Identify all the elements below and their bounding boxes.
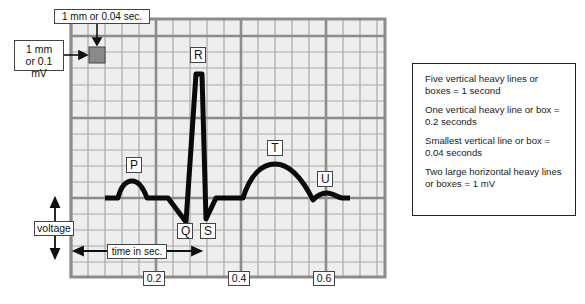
legend-item: One vertical heavy line or box = 0.2 sec… [425, 104, 565, 127]
voltage-per-mm-line1: 1 mm [17, 43, 61, 55]
time-axis-label: time in sec. [107, 244, 167, 259]
legend-item: Two large horizontal heavy lines or boxe… [425, 166, 565, 189]
sample-small-box [89, 47, 105, 63]
time-per-mm-label: 1 mm or 0.04 sec. [54, 9, 150, 24]
wave-label-r: R [190, 47, 206, 63]
legend-item: Five vertical heavy lines or boxes = 1 s… [425, 73, 565, 96]
voltage-axis-label: voltage [34, 221, 74, 236]
time-tick-0-6: 0.6 [313, 271, 335, 286]
time-tick-0-2: 0.2 [143, 271, 165, 286]
legend-box: Five vertical heavy lines or boxes = 1 s… [412, 63, 576, 216]
wave-label-t: T [267, 140, 283, 156]
time-tick-0-4: 0.4 [228, 271, 250, 286]
wave-label-s: S [200, 223, 216, 239]
ecg-paper [71, 19, 385, 277]
wave-label-q: Q [177, 223, 193, 239]
wave-label-p: P [126, 157, 142, 173]
legend-item: Smallest vertical line or box = 0.04 sec… [425, 135, 565, 158]
voltage-per-mm-line2: or 0.1 mV [17, 55, 61, 79]
voltage-per-mm-label: 1 mm or 0.1 mV [14, 40, 64, 71]
wave-label-u: U [317, 171, 333, 187]
